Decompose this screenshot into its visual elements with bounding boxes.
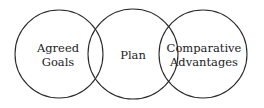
- label-plan: Plan: [120, 48, 146, 62]
- label-comparative-advantages-line1: Comparative: [167, 41, 242, 55]
- label-agreed-goals-line1: Agreed: [36, 41, 80, 55]
- label-agreed-goals-line2: Goals: [42, 55, 75, 69]
- venn-diagram: Agreed Goals Plan Comparative Advantages: [0, 0, 264, 108]
- label-comparative-advantages-line2: Advantages: [169, 55, 238, 69]
